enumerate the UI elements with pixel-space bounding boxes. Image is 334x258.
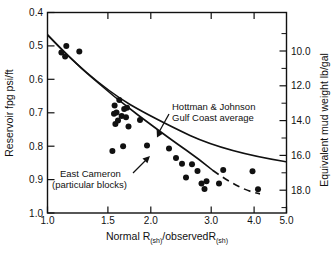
data-point xyxy=(220,167,226,173)
data-point xyxy=(255,186,261,192)
pore-pressure-chart-figure: 0.4 0.5 0.6 0.7 0.8 0.9 1.0 Reservoir fp… xyxy=(0,0,334,258)
y2-tick-label-3: 16.0 xyxy=(291,150,311,161)
data-point xyxy=(183,175,189,181)
data-point xyxy=(76,49,82,55)
data-point xyxy=(202,186,208,192)
y-tick-label-3: 0.7 xyxy=(29,107,43,118)
right-axis-ticks xyxy=(280,51,287,190)
x-tick-label-3: 3.0 xyxy=(204,215,218,226)
hottman-johnson-curve xyxy=(48,35,287,162)
y-tick-label-4: 0.8 xyxy=(29,141,43,152)
hottman-johnson-label-line1: Hottman & Johnson xyxy=(172,101,255,112)
bottom-axis-title-sub2: (sh) xyxy=(216,237,228,245)
data-point xyxy=(166,146,172,152)
x-tick-label-2: 2.0 xyxy=(144,215,158,226)
data-point xyxy=(195,168,201,174)
y2-tick-label-0: 10.0 xyxy=(291,46,311,57)
data-point xyxy=(63,43,69,49)
data-point xyxy=(124,105,130,111)
data-point xyxy=(179,161,185,167)
bottom-axis-title-sub1: (sh) xyxy=(150,237,162,245)
left-axis-title: Reservoir fpg psi/ft xyxy=(3,69,15,157)
right-axis-title: Equivalent mud weight lb/gal xyxy=(318,53,330,187)
data-point xyxy=(189,161,195,167)
top-axis-ticks xyxy=(108,13,254,20)
y-tick-label-5: 0.9 xyxy=(29,174,43,185)
hottman-johnson-leader-line xyxy=(159,114,170,133)
data-point xyxy=(137,117,143,123)
data-point xyxy=(116,97,122,103)
x-tick-label-4: 4.0 xyxy=(247,215,261,226)
bottom-axis-ticks xyxy=(48,207,287,214)
y2-tick-label-4: 18.0 xyxy=(291,185,311,196)
data-point xyxy=(204,178,210,184)
data-point xyxy=(62,54,68,60)
data-point xyxy=(109,148,115,154)
data-point xyxy=(120,143,126,149)
hottman-johnson-label-line2: Gulf Coast average xyxy=(172,112,254,123)
x-tick-label-0: 1.0 xyxy=(41,215,55,226)
east-cameron-leader-line xyxy=(133,159,147,173)
y2-tick-label-1: 12.0 xyxy=(291,80,311,91)
data-point xyxy=(114,110,120,116)
data-point xyxy=(250,168,256,174)
chart-canvas: 0.4 0.5 0.6 0.7 0.8 0.9 1.0 Reservoir fp… xyxy=(0,0,334,258)
data-point xyxy=(112,103,118,109)
y-tick-label-2: 0.6 xyxy=(29,74,43,85)
y-tick-label-0: 0.4 xyxy=(29,7,43,18)
x-tick-label-1: 1.5 xyxy=(101,215,115,226)
data-point xyxy=(216,181,222,187)
y2-tick-label-2: 14.0 xyxy=(291,115,311,126)
data-point xyxy=(144,143,150,149)
data-point xyxy=(126,124,132,130)
x-tick-label-5: 5.0 xyxy=(280,215,294,226)
bottom-axis-title-pre: Normal R xyxy=(106,230,151,242)
east-cameron-label-line1: East Cameron xyxy=(60,168,121,179)
data-point xyxy=(173,155,179,161)
y-tick-label-1: 0.5 xyxy=(29,40,43,51)
bottom-axis-title-mid: /observedR xyxy=(162,230,216,242)
bottom-axis-title: Normal R(sh)/observedR(sh) xyxy=(106,230,228,245)
east-cameron-label-line2: (particular blocks) xyxy=(52,179,127,190)
data-point xyxy=(123,114,129,120)
